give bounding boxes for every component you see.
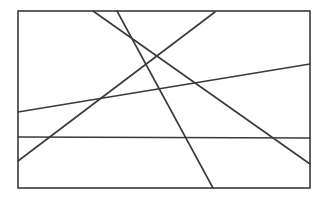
shallow-line-4 xyxy=(18,64,310,112)
diagram-canvas xyxy=(0,0,327,199)
horizontal-line-5 xyxy=(18,137,310,138)
diagonal-line-1 xyxy=(93,11,310,164)
steep-line-2 xyxy=(117,11,213,188)
frame-rectangle xyxy=(18,11,310,188)
line-diagram xyxy=(0,0,327,199)
